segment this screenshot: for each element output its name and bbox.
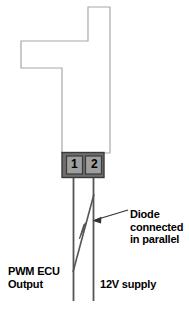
pin-number-1: 1: [71, 158, 78, 170]
diode-annotation-label: Diode connected in parallel: [130, 208, 183, 246]
pwm-ecu-output-label: PWM ECU Output: [8, 265, 60, 290]
solenoid-body-outline: [21, 7, 110, 153]
pin-number-2: 2: [91, 158, 98, 170]
diode-symbol-line: [73, 194, 94, 272]
supply-12v-label: 12V supply: [100, 278, 156, 291]
wiring-diagram: 1 2 Diode connected in parallel PWM ECU …: [0, 0, 189, 309]
diagram-canvas: [0, 0, 189, 309]
